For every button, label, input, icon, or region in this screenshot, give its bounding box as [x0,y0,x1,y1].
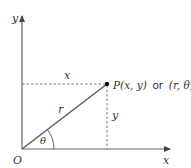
y-axis-label: y [11,12,19,25]
point-polar-label: (r, θ) [169,79,191,91]
point-cartesian-label: P(x, y) [112,79,147,91]
point-label: P(x, y) or (r, θ) [112,79,191,91]
vertical-segment-label: y [111,109,119,122]
horizontal-segment-label: x [64,69,71,82]
radius-label: r [58,103,64,116]
origin-label: O [13,154,22,167]
point-p-marker [105,82,109,86]
polar-coordinates-diagram: y x O x y r θ P(x, y) or (r, θ) [0,0,191,168]
x-axis-label: x [163,154,170,167]
angle-arc [47,130,54,149]
point-or-label: or [152,79,163,91]
radius-line [22,84,107,149]
angle-label: θ [40,135,46,146]
